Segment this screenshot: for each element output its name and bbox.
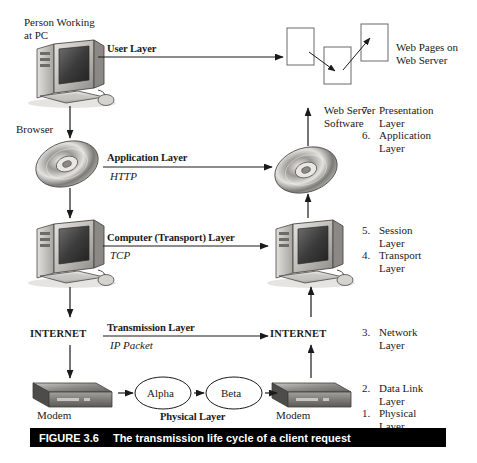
- label-browser: Browser: [16, 123, 53, 136]
- osi-layer-5-number: 5.: [362, 224, 370, 237]
- osi-layer-5-label: Session Layer: [379, 224, 413, 249]
- label-internet-left: INTERNET: [30, 328, 86, 341]
- modem-left-icon: [33, 383, 112, 407]
- label-web-pages-on-web-server: Web Pages on Web Server: [396, 41, 458, 66]
- figure-number: FIGURE 3.6: [39, 432, 99, 444]
- label-transmission-layer: Transmission Layer: [107, 322, 195, 335]
- figure-diagram: Person Working at PC Browser INTERNET IN…: [0, 0, 477, 463]
- osi-layer-4-label: Transport Layer: [379, 249, 421, 274]
- web-page-rect-1: [287, 28, 314, 65]
- label-modem-right: Modem: [276, 409, 310, 422]
- osi-layer-4-number: 4.: [362, 249, 370, 262]
- osi-layer-2-label: Data Link Layer: [379, 382, 423, 407]
- label-ip-packet-protocol: IP Packet: [110, 339, 153, 352]
- label-internet-right: INTERNET: [270, 328, 326, 341]
- osi-layer-3-number: 3.: [362, 326, 370, 339]
- modem-right-icon: [272, 383, 351, 407]
- server-computer-icon: [267, 220, 355, 288]
- web-pages-group: [287, 24, 388, 84]
- osi-layer-2-number: 2.: [362, 382, 370, 395]
- osi-layer-6-label: Application Layer: [379, 129, 431, 154]
- web-page-rect-3: [361, 24, 388, 61]
- label-physical-layer: Physical Layer: [160, 411, 225, 424]
- label-modem-left: Modem: [37, 409, 71, 422]
- web-server-software-cd-icon: [269, 139, 343, 201]
- client-computer-transport-icon: [28, 220, 116, 288]
- label-transport-layer: Computer (Transport) Layer: [107, 232, 235, 245]
- osi-layer-7-label: Presentation Layer: [379, 104, 433, 129]
- label-http-protocol: HTTP: [110, 170, 137, 183]
- figure-caption-bar: FIGURE 3.6 The transmission life cycle o…: [30, 428, 446, 447]
- osi-layer-6-number: 6.: [362, 129, 370, 142]
- osi-layer-3-label: Network Layer: [379, 326, 418, 351]
- label-alpha: Alpha: [147, 387, 174, 400]
- label-application-layer: Application Layer: [107, 152, 187, 165]
- figure-caption-text: The transmission life cycle of a client …: [113, 432, 351, 444]
- osi-layer-1-number: 1.: [362, 407, 370, 420]
- osi-layer-7-number: 7.: [362, 104, 370, 117]
- label-beta: Beta: [221, 387, 241, 400]
- label-tcp-protocol: TCP: [110, 249, 130, 262]
- client-pc-icon: [28, 40, 116, 108]
- browser-cd-icon: [30, 133, 104, 195]
- label-person-working-at-pc: Person Working at PC: [24, 16, 95, 41]
- label-user-layer: User Layer: [107, 43, 156, 56]
